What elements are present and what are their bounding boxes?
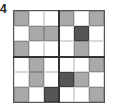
grid-cell-r6-c4 bbox=[59, 87, 74, 102]
grid-cell-r5-c5 bbox=[74, 72, 89, 87]
grid-cell-r6-c6 bbox=[89, 87, 104, 102]
grid-cell-r6-c2 bbox=[29, 87, 44, 102]
grid-cell-r1-c2 bbox=[29, 11, 44, 26]
grid-cell-r3-c3 bbox=[44, 41, 59, 56]
grid-cell-r1-c3 bbox=[44, 11, 59, 26]
grid-cell-r2-c4 bbox=[59, 26, 74, 41]
center-horizontal-divider bbox=[13, 56, 105, 58]
grid-cell-r5-c2 bbox=[29, 72, 44, 87]
grid-cell-r6-c3 bbox=[44, 87, 59, 102]
grid-cell-r6-c5 bbox=[74, 87, 89, 102]
grid-cell-r2-c2 bbox=[29, 26, 44, 41]
grid-cell-r5-c3 bbox=[44, 72, 59, 87]
grid-cell-r1-c5 bbox=[74, 11, 89, 26]
grid-cell-r5-c4 bbox=[59, 72, 74, 87]
grid-cell-r6-c1 bbox=[14, 87, 29, 102]
grid-cell-r5-c1 bbox=[14, 72, 29, 87]
grid-cell-r4-c3 bbox=[44, 57, 59, 72]
grid-cell-r3-c1 bbox=[14, 41, 29, 56]
grid-cell-r4-c5 bbox=[74, 57, 89, 72]
grid-cell-r2-c6 bbox=[89, 26, 104, 41]
grid-cell-r1-c6 bbox=[89, 11, 104, 26]
grid-cell-r3-c6 bbox=[89, 41, 104, 56]
grid-cell-r4-c6 bbox=[89, 57, 104, 72]
grid-cell-r3-c5 bbox=[74, 41, 89, 56]
grid-cell-r3-c4 bbox=[59, 41, 74, 56]
grid-cell-r2-c1 bbox=[14, 26, 29, 41]
grid-cell-r1-c4 bbox=[59, 11, 74, 26]
grid-cell-r2-c5 bbox=[74, 26, 89, 41]
grid-cell-r4-c4 bbox=[59, 57, 74, 72]
grid-cell-r4-c1 bbox=[14, 57, 29, 72]
grid-cell-r2-c3 bbox=[44, 26, 59, 41]
puzzle-number-label: 4 bbox=[0, 3, 7, 15]
grid-cell-r3-c2 bbox=[29, 41, 44, 56]
grid-cell-r5-c6 bbox=[89, 72, 104, 87]
grid-cell-r4-c2 bbox=[29, 57, 44, 72]
grid-cell-r1-c1 bbox=[14, 11, 29, 26]
